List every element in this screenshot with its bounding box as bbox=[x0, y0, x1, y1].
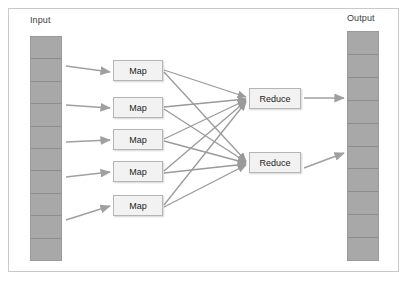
input-cell bbox=[31, 82, 61, 104]
map-node[interactable]: Map bbox=[113, 60, 163, 81]
output-cell bbox=[348, 215, 378, 238]
map-node[interactable]: Map bbox=[113, 161, 163, 182]
input-cell bbox=[31, 59, 61, 81]
input-cell bbox=[31, 104, 61, 126]
reduce-node[interactable]: Reduce bbox=[249, 88, 301, 109]
output-cell bbox=[348, 238, 378, 260]
input-cell bbox=[31, 194, 61, 216]
map-node[interactable]: Map bbox=[113, 129, 163, 150]
input-column-label: Input bbox=[30, 15, 51, 25]
map-node[interactable]: Map bbox=[113, 97, 163, 118]
reduce-node[interactable]: Reduce bbox=[249, 152, 301, 173]
diagram-frame bbox=[8, 8, 399, 272]
map-node[interactable]: Map bbox=[113, 195, 163, 216]
output-cell bbox=[348, 124, 378, 147]
input-cell bbox=[31, 216, 61, 238]
input-cell bbox=[31, 149, 61, 171]
output-cell bbox=[348, 192, 378, 215]
output-cell bbox=[348, 147, 378, 170]
output-cell bbox=[348, 101, 378, 124]
output-column-label: Output bbox=[347, 13, 375, 23]
input-data-column bbox=[30, 36, 62, 261]
output-cell bbox=[348, 32, 378, 55]
input-cell bbox=[31, 127, 61, 149]
input-cell bbox=[31, 37, 61, 59]
input-cell bbox=[31, 171, 61, 193]
mapreduce-diagram: Input Output bbox=[0, 0, 407, 282]
output-cell bbox=[348, 78, 378, 101]
output-data-column bbox=[347, 31, 379, 261]
output-cell bbox=[348, 55, 378, 78]
output-cell bbox=[348, 169, 378, 192]
input-cell bbox=[31, 239, 61, 260]
